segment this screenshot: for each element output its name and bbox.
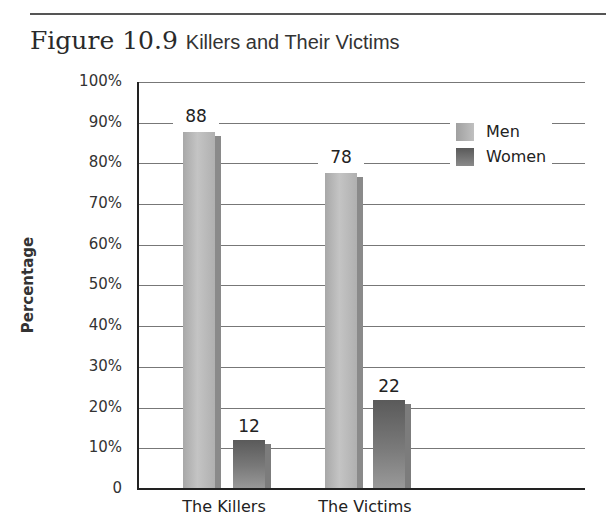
chart-title: Figure 10.9Killers and Their Victims [30, 26, 400, 55]
y-tick-50: 50% [62, 275, 122, 293]
y-axis [137, 82, 139, 490]
y-tick-100: 100% [62, 72, 122, 90]
y-axis-label: Percentage [19, 237, 37, 334]
bar-victims-men [325, 173, 357, 489]
legend: Men Women [450, 117, 552, 171]
legend-item-men: Men [456, 119, 546, 144]
legend-label-women: Women [486, 147, 546, 166]
x-axis [137, 488, 585, 490]
y-tick-20: 20% [62, 398, 122, 416]
gridline-100 [138, 82, 585, 83]
top-rule [30, 13, 606, 15]
figure-number: Figure 10.9 [30, 26, 178, 55]
legend-swatch-men [456, 123, 474, 141]
x-category-victims: The Victims [305, 497, 425, 516]
y-tick-30: 30% [62, 357, 122, 375]
bar-victims-women [373, 400, 405, 489]
legend-swatch-women [456, 148, 474, 166]
value-label-killers-men: 88 [173, 106, 219, 126]
x-category-killers: The Killers [164, 497, 284, 516]
bar-killers-women [233, 440, 265, 489]
figure-title: Killers and Their Victims [186, 31, 400, 53]
y-tick-60: 60% [62, 235, 122, 253]
value-label-victims-women: 22 [367, 376, 411, 396]
y-tick-0: 0 [62, 479, 122, 497]
value-label-victims-men: 78 [318, 147, 364, 167]
value-label-killers-women: 12 [227, 416, 271, 436]
legend-item-women: Women [456, 144, 546, 169]
y-tick-80: 80% [62, 153, 122, 171]
y-tick-10: 10% [62, 438, 122, 456]
legend-label-men: Men [486, 122, 520, 141]
y-tick-70: 70% [62, 194, 122, 212]
y-tick-90: 90% [62, 113, 122, 131]
bar-killers-men [183, 132, 215, 489]
y-tick-40: 40% [62, 316, 122, 334]
